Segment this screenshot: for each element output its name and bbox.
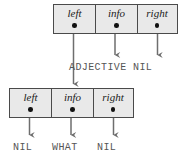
- parent-right-value: NIL: [133, 62, 152, 73]
- child-node-field-right: right: [93, 89, 132, 117]
- pointer-dot: [72, 23, 77, 28]
- child-left-value: NIL: [13, 142, 32, 153]
- child-node: left info right: [9, 88, 134, 118]
- parent-node-field-left: left: [54, 5, 95, 33]
- parent-values-caption: ADJECTIVE NIL: [69, 62, 152, 73]
- pointer-dot: [114, 23, 119, 28]
- child-right-value: NIL: [97, 142, 116, 153]
- field-label: left: [23, 92, 37, 103]
- field-label: right: [102, 92, 123, 103]
- child-info-value: WHAT: [52, 142, 78, 153]
- parent-info-value: ADJECTIVE: [69, 62, 127, 73]
- field-label: info: [64, 92, 81, 103]
- pointer-dot: [155, 23, 160, 28]
- child-node-field-info: info: [51, 89, 93, 117]
- field-label: right: [146, 8, 167, 19]
- pointer-dot: [111, 107, 116, 112]
- parent-node-field-info: info: [95, 5, 137, 33]
- pointer-dot: [70, 107, 75, 112]
- parent-node-field-right: right: [137, 5, 176, 33]
- pointer-dot: [28, 107, 33, 112]
- child-node-field-left: left: [10, 89, 51, 117]
- node-pointer-diagram: left info right ADJECTIVE NIL left info …: [0, 0, 189, 158]
- field-label: left: [67, 8, 81, 19]
- field-label: info: [108, 8, 125, 19]
- parent-node: left info right: [53, 4, 178, 34]
